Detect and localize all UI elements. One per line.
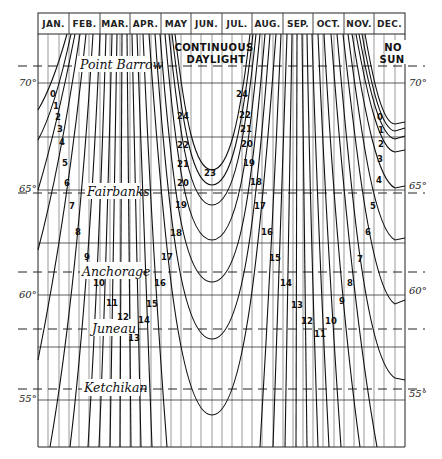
hour-label: 1 (53, 101, 59, 111)
hour-label: 23 (204, 168, 216, 178)
hour-label: 12 (301, 316, 313, 326)
hour-label: 11 (106, 298, 118, 308)
hour-label: 0 (377, 112, 383, 122)
hour-label: 15 (269, 253, 281, 263)
continuous-daylight-label: CONTINUOUS (174, 42, 253, 53)
hour-label: 2 (55, 112, 61, 122)
month-jun: JUN. (194, 19, 218, 29)
hour-label: 14 (280, 278, 292, 288)
hour-label: 18 (170, 228, 182, 238)
hour-label: 4 (59, 137, 65, 147)
hour-label: 13 (128, 333, 140, 343)
hour-label: 4 (376, 175, 382, 185)
lat-65-left: 65° (19, 183, 37, 194)
hour-label: 20 (177, 178, 189, 188)
hour-label: 14 (138, 315, 150, 325)
hour-label: 12 (117, 312, 129, 322)
city-point-barrow: Point Barrow (79, 57, 164, 72)
hour-label: 11 (314, 329, 326, 339)
lat-60-left: 60° (19, 289, 37, 300)
month-jul: JUL. (225, 19, 247, 29)
lat-70-right: 70° (409, 77, 427, 88)
hour-label: 5 (62, 158, 68, 168)
hour-label: 10 (93, 278, 105, 288)
hour-label: 17 (161, 252, 173, 262)
month-mar: MAR. (101, 19, 129, 29)
hour-label: 3 (377, 154, 383, 164)
hour-label: 18 (250, 177, 262, 187)
city-anchorage: Anchorage (81, 264, 150, 279)
hour-label: 7 (69, 201, 75, 211)
hour-label: 24 (177, 111, 189, 121)
no-sun-label: NO (384, 42, 402, 53)
hour-label: 6 (64, 178, 70, 188)
hour-label: 0 (50, 89, 56, 99)
continuous-daylight-label-2: DAYLIGHT (186, 54, 245, 65)
hour-label: 8 (75, 227, 81, 237)
month-oct: OCT. (317, 19, 341, 29)
lat-65-right: 65° (409, 180, 427, 191)
city-fairbanks: Fairbanks (86, 184, 150, 199)
hour-label: 21 (240, 124, 252, 134)
hour-label: 15 (146, 299, 158, 309)
month-nov: NOV. (346, 19, 371, 29)
hour-label: 16 (154, 278, 166, 288)
hour-label: 3 (57, 124, 63, 134)
lat-55-left: 55° (19, 393, 37, 404)
hour-label: 8 (347, 278, 353, 288)
hour-label: 22 (239, 110, 251, 120)
month-feb: FEB. (73, 19, 97, 29)
daylight-chart: JAN. FEB. MAR. APR. MAY JUN. JUL. AUG. S… (0, 0, 442, 459)
hour-label: 1 (378, 125, 384, 135)
lat-60-right: 60° (409, 285, 427, 296)
month-apr: APR. (133, 19, 158, 29)
hour-label: 21 (177, 159, 189, 169)
hour-label: 19 (175, 200, 187, 210)
hour-label: 7 (357, 254, 363, 264)
month-aug: AUG. (254, 19, 280, 29)
hour-label: 2 (378, 139, 384, 149)
lat-70-left: 70° (19, 77, 37, 88)
hour-label: 24 (236, 89, 248, 99)
month-dec: DEC. (377, 19, 402, 29)
month-sep: SEP. (287, 19, 309, 29)
hour-label: 9 (84, 252, 90, 262)
month-may: MAY (165, 19, 188, 29)
hour-label: 5 (370, 201, 376, 211)
hour-label: 16 (261, 227, 273, 237)
hour-label: 9 (339, 296, 345, 306)
hour-label: 19 (243, 158, 255, 168)
month-header: JAN. FEB. MAR. APR. MAY JUN. JUL. AUG. S… (38, 13, 405, 34)
hour-label: 22 (177, 140, 189, 150)
lat-55-right: 55° (409, 388, 427, 399)
hour-label: 13 (291, 300, 303, 310)
month-jan: JAN. (41, 19, 64, 29)
hour-label: 17 (254, 201, 266, 211)
hour-label: 6 (365, 227, 371, 237)
city-ketchikan: Ketchikan (83, 380, 148, 395)
no-sun-label-2: SUN (380, 54, 405, 65)
hour-labels-right: 24 22 21 20 19 18 17 16 15 14 13 12 11 1… (236, 89, 384, 339)
hour-label: 10 (325, 316, 337, 326)
hour-label: 20 (241, 139, 253, 149)
